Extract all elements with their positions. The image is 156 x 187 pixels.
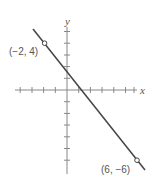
open-endpoint-a [42,41,47,46]
point-b-label: (6, −6) [101,164,130,175]
graph: y x (−2, 4) (6, −6) [0,0,156,187]
y-axis [64,27,70,174]
graph-line [33,29,145,170]
point-a-label: (−2, 4) [9,46,38,57]
open-endpoint-b [135,158,140,163]
x-axis-label: x [139,84,145,96]
y-axis-label: y [64,15,70,27]
x-axis [15,87,137,93]
